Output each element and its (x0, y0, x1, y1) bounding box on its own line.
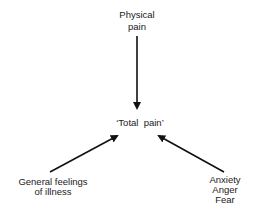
node-physical-line2: pain (107, 22, 167, 32)
node-physical-line1: Physical (107, 10, 167, 20)
node-physical-pain: Physical pain (107, 10, 167, 32)
node-total-pain: ‘Total pain’ (100, 118, 180, 128)
node-anxiety-anger-fear: Anxiety Anger Fear (200, 175, 250, 205)
arrow-emotions-to-total (159, 136, 224, 172)
arrow-general-to-total (50, 136, 117, 172)
node-general-feelings: General feelings of illness (3, 177, 103, 197)
node-emotions-line3: Fear (200, 195, 250, 205)
node-general-line2: of illness (3, 187, 103, 197)
